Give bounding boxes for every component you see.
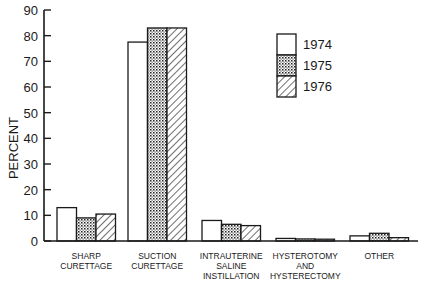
bar-1976 xyxy=(167,28,187,241)
bar-1976 xyxy=(96,214,116,241)
category-label: SHARP xyxy=(72,251,102,261)
legend: 197419751976 xyxy=(277,34,332,97)
y-tick-label: 80 xyxy=(24,29,38,44)
category-label: INTRAUTERINE xyxy=(200,251,263,261)
bar-1975 xyxy=(222,224,242,241)
legend-swatch-1976 xyxy=(277,76,296,97)
bar-1974 xyxy=(202,220,222,241)
legend-label: 1975 xyxy=(303,58,332,73)
y-tick-label: 50 xyxy=(24,106,38,121)
category-label: AND xyxy=(296,261,314,271)
category-label: CURETTAGE xyxy=(131,261,183,271)
y-tick-label: 40 xyxy=(24,131,38,146)
legend-swatch-1975 xyxy=(277,55,296,76)
y-tick-label: 20 xyxy=(24,183,38,198)
bar-1975 xyxy=(77,218,97,241)
bar-chart: 0102030405060708090 SHARPCURETTAGESUCTIO… xyxy=(0,0,428,282)
bars xyxy=(57,28,409,241)
y-tick-label: 90 xyxy=(24,3,38,18)
category-labels: SHARPCURETTAGESUCTIONCURETTAGEINTRAUTERI… xyxy=(60,251,394,281)
bar-1974 xyxy=(57,208,77,241)
y-tick-label: 0 xyxy=(31,234,38,249)
bar-1974 xyxy=(128,42,148,241)
y-tick-label: 70 xyxy=(24,54,38,69)
category-label: CURETTAGE xyxy=(60,261,112,271)
legend-label: 1974 xyxy=(303,37,332,52)
bar-1975 xyxy=(370,233,390,241)
category-label: INSTILLATION xyxy=(203,271,260,281)
y-tick-label: 60 xyxy=(24,80,38,95)
y-axis-label: PERCENT xyxy=(6,117,21,179)
y-tick-label: 30 xyxy=(24,157,38,172)
category-label: HYSTERECTOMY xyxy=(270,271,341,281)
category-label: OTHER xyxy=(364,251,394,261)
legend-swatch-1974 xyxy=(277,34,296,55)
bar-1976 xyxy=(241,226,261,241)
category-label: HYSTEROTOMY xyxy=(273,251,339,261)
category-label: SALINE xyxy=(216,261,247,271)
y-tick-label: 10 xyxy=(24,208,38,223)
y-axis: 0102030405060708090 xyxy=(24,3,51,249)
bar-1975 xyxy=(148,28,168,241)
category-label: SUCTION xyxy=(138,251,176,261)
legend-label: 1976 xyxy=(303,79,332,94)
